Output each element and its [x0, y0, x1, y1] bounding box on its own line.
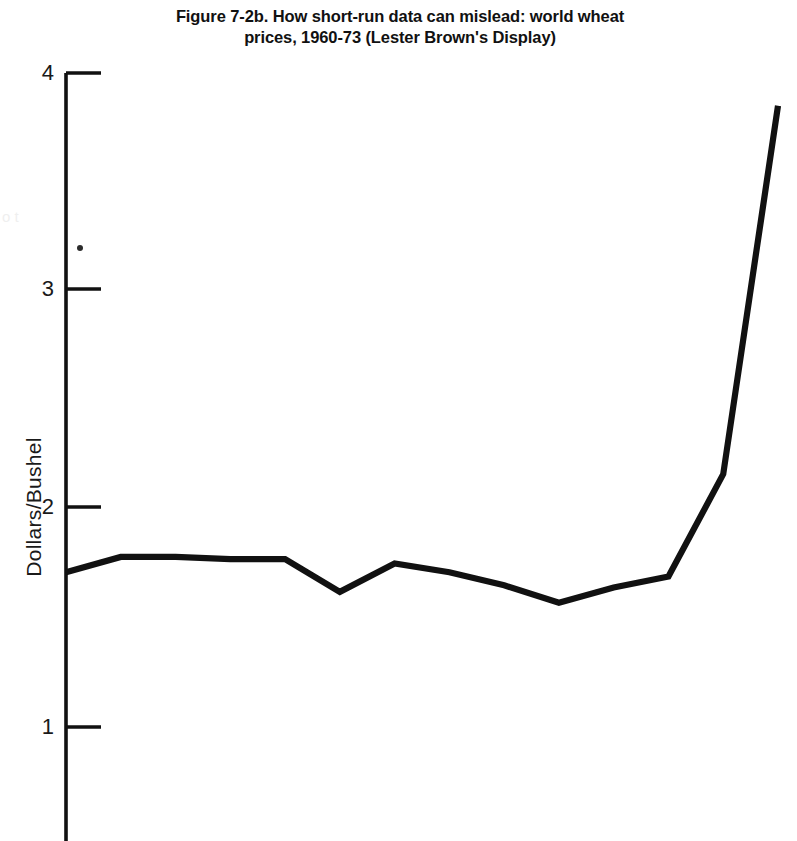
figure-root: Figure 7-2b. How short-run data can misl…: [0, 0, 797, 841]
data-series-line: [66, 106, 778, 603]
plot-canvas: [0, 0, 797, 841]
